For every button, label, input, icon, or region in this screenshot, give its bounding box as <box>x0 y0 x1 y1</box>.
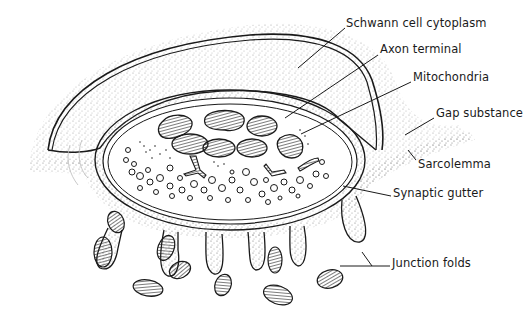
label-axon-terminal: Axon terminal <box>380 42 462 56</box>
label-synaptic-gutter: Synaptic gutter <box>393 186 483 200</box>
label-schwann-cell-cytoplasm: Schwann cell cytoplasm <box>346 16 487 30</box>
neuromuscular-junction-diagram: Schwann cell cytoplasm Axon terminal Mit… <box>0 0 531 314</box>
label-junction-folds: Junction folds <box>392 256 471 270</box>
label-gap-substance: Gap substance <box>436 106 523 120</box>
label-mitochondria: Mitochondria <box>413 70 489 84</box>
label-sarcolemma: Sarcolemma <box>418 157 491 171</box>
